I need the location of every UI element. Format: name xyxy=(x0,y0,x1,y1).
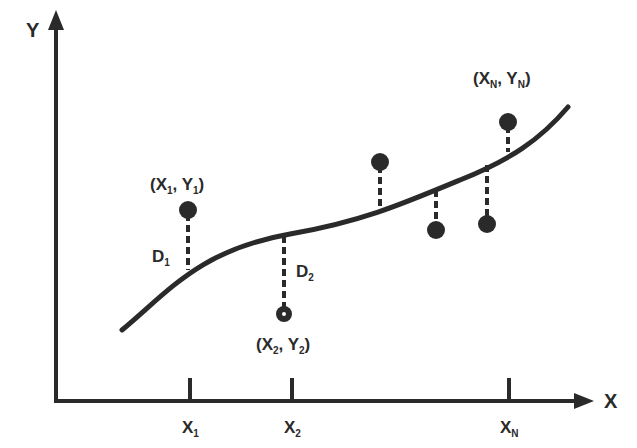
point-label-2: (X2, Y2) xyxy=(256,335,310,356)
tick-label-xn: XN xyxy=(500,418,519,439)
data-point-1 xyxy=(179,201,197,219)
deviation-label-d1: D1 xyxy=(152,247,170,268)
x-axis-label: X xyxy=(604,390,618,412)
data-point-n xyxy=(499,113,517,131)
tick-label-x2: X2 xyxy=(284,418,301,439)
data-point-3 xyxy=(371,153,389,171)
tick-label-x1: X1 xyxy=(182,418,199,439)
point-label-1: (X1, Y1) xyxy=(150,175,204,196)
deviation-label-d2: D2 xyxy=(296,262,314,283)
y-axis-arrowhead xyxy=(48,10,64,30)
data-point-5 xyxy=(478,215,496,233)
y-axis-label: Y xyxy=(26,19,40,41)
point-label-n: (XN, YN) xyxy=(473,69,531,90)
data-point-4 xyxy=(427,221,445,239)
x-axis-arrowhead xyxy=(574,393,594,409)
least-squares-diagram: Y X X1 X2 XN (X1, Y1) (X2, Y2) (XN, YN) xyxy=(0,0,637,448)
data-point-2-center xyxy=(282,312,286,316)
